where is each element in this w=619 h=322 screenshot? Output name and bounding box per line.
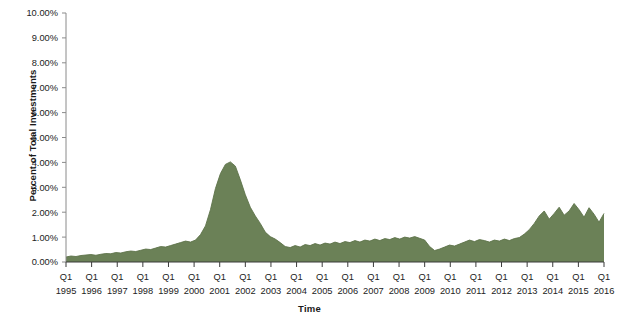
- x-tick-quarter-label: Q1: [393, 272, 405, 282]
- x-tick-year-label: 2008: [389, 286, 410, 296]
- x-tick-year-label: 1999: [158, 286, 179, 296]
- x-tick-quarter-label: Q1: [85, 272, 97, 282]
- x-tick-label-group: Q11995Q11996Q11997Q11998Q11999Q12000Q120…: [56, 272, 615, 296]
- x-tick-quarter-label: Q1: [547, 272, 559, 282]
- area-chart: 0.00%1.00%2.00%3.00%4.00%5.00%6.00%7.00%…: [0, 0, 619, 322]
- x-tick-year-label: 2007: [363, 286, 384, 296]
- x-tick-quarter-label: Q1: [290, 272, 302, 282]
- x-tick-quarter-label: Q1: [598, 272, 610, 282]
- x-tick-quarter-label: Q1: [521, 272, 533, 282]
- x-tick-year-label: 2014: [542, 286, 563, 296]
- x-axis-title: Time: [0, 303, 619, 314]
- x-tick-year-label: 2003: [261, 286, 282, 296]
- x-tick-year-label: 2002: [235, 286, 256, 296]
- x-tick-year-label: 2012: [491, 286, 512, 296]
- y-axis-title: Percent of Total Investments: [27, 16, 38, 256]
- x-tick-quarter-label: Q1: [572, 272, 584, 282]
- x-tick-year-label: 2000: [184, 286, 205, 296]
- y-tick-label: 0.00%: [32, 257, 58, 267]
- x-tick-year-label: 2015: [568, 286, 589, 296]
- x-tick-year-label: 1995: [56, 286, 77, 296]
- x-axis-ticks: [66, 262, 604, 267]
- x-tick-year-label: 2013: [517, 286, 538, 296]
- x-tick-year-label: 1996: [81, 286, 102, 296]
- x-tick-year-label: 2011: [466, 286, 486, 296]
- x-tick-year-label: 2009: [414, 286, 435, 296]
- x-tick-quarter-label: Q1: [367, 272, 379, 282]
- area-series: [66, 162, 604, 262]
- x-tick-year-label: 2001: [209, 286, 230, 296]
- x-tick-quarter-label: Q1: [188, 272, 200, 282]
- x-tick-year-label: 1998: [133, 286, 154, 296]
- x-tick-year-label: 2006: [337, 286, 358, 296]
- chart-canvas: 0.00%1.00%2.00%3.00%4.00%5.00%6.00%7.00%…: [0, 0, 619, 322]
- x-tick-quarter-label: Q1: [60, 272, 72, 282]
- x-tick-quarter-label: Q1: [111, 272, 123, 282]
- x-tick-quarter-label: Q1: [265, 272, 277, 282]
- x-tick-quarter-label: Q1: [342, 272, 354, 282]
- x-tick-quarter-label: Q1: [137, 272, 149, 282]
- x-tick-year-label: 2010: [440, 286, 461, 296]
- y-axis-ticks: [62, 13, 66, 262]
- x-tick-quarter-label: Q1: [239, 272, 251, 282]
- x-tick-year-label: 2004: [286, 286, 307, 296]
- x-tick-quarter-label: Q1: [495, 272, 507, 282]
- x-tick-quarter-label: Q1: [214, 272, 226, 282]
- x-tick-quarter-label: Q1: [444, 272, 456, 282]
- x-tick-year-label: 2016: [594, 286, 615, 296]
- x-tick-quarter-label: Q1: [316, 272, 328, 282]
- x-tick-quarter-label: Q1: [418, 272, 430, 282]
- x-tick-quarter-label: Q1: [162, 272, 174, 282]
- x-tick-quarter-label: Q1: [470, 272, 482, 282]
- x-tick-year-label: 1997: [107, 286, 128, 296]
- x-tick-year-label: 2005: [312, 286, 333, 296]
